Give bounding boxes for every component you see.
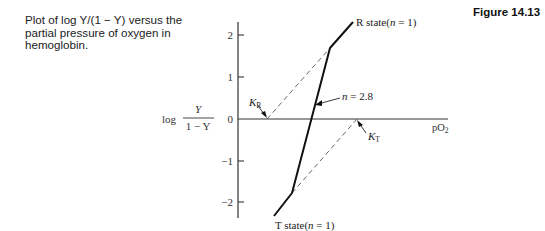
tick-label: −1 — [221, 155, 233, 167]
tick-label: −2 — [221, 196, 233, 208]
tick-label: 2 — [228, 29, 234, 41]
kt-arrow-head — [357, 120, 363, 127]
hill-plot: 2 1 0 −1 −2 log Y 1 − Y pO2 R state(n = … — [0, 0, 545, 231]
svg-text:Y: Y — [195, 103, 203, 115]
svg-text:1 − Y: 1 − Y — [186, 120, 211, 132]
y-tick-labels: 2 1 0 −1 −2 — [221, 29, 233, 208]
tick-label: 0 — [228, 113, 234, 125]
x-axis-label: pO2 — [432, 122, 449, 135]
r-state-label: R state(n = 1) — [356, 16, 417, 29]
n-label: n = 2.8 — [342, 90, 373, 102]
y-axis-label: log Y 1 − Y — [162, 103, 214, 132]
t-state-label: T state(n = 1) — [275, 219, 335, 231]
tick-label: 1 — [228, 71, 234, 83]
kr-arrow-head — [261, 111, 267, 118]
svg-text:log: log — [162, 113, 177, 125]
kt-label: KT — [367, 130, 380, 144]
